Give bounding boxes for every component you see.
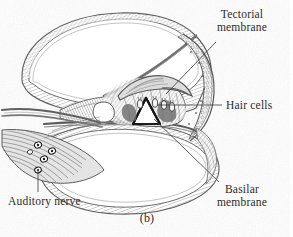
cochlea-figure: Tectorial membrane Hair cells Basilar me… bbox=[0, 0, 293, 237]
label-basilar-line2: membrane bbox=[196, 196, 288, 209]
inner-spiral-sulcus bbox=[93, 102, 114, 122]
label-hair-cells-line1: Hair cells bbox=[226, 99, 290, 112]
label-auditory-nerve-line1: Auditory nerve bbox=[8, 195, 118, 208]
label-tectorial-membrane: Tectorial membrane bbox=[196, 8, 288, 33]
label-basilar-membrane: Basilar membrane bbox=[196, 183, 288, 208]
label-basilar-line1: Basilar bbox=[196, 183, 288, 196]
figure-caption: (b) bbox=[125, 212, 169, 225]
label-tectorial-line2: membrane bbox=[196, 21, 288, 34]
label-auditory-nerve: Auditory nerve bbox=[8, 195, 118, 208]
label-hair-cells: Hair cells bbox=[226, 99, 290, 112]
label-tectorial-line1: Tectorial bbox=[196, 8, 288, 21]
